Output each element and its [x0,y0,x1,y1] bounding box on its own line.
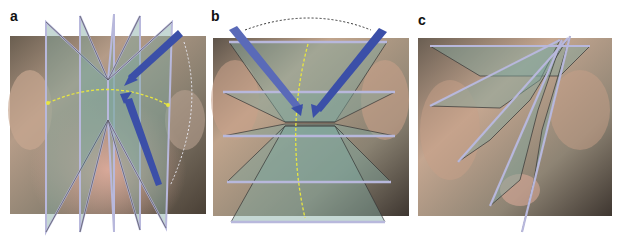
panel-a-illustration [0,0,210,240]
stacked-planes [223,42,395,222]
panel-c-illustration [410,0,619,240]
panel-b-illustration [205,0,415,240]
rotation-arc-dark [245,18,371,30]
panel-c: c [410,0,619,240]
panel-a: a [0,0,210,240]
panel-b: b [205,0,415,240]
